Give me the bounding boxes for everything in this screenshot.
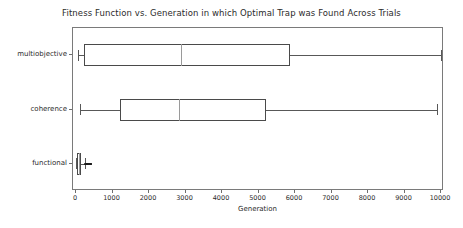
x-tick-label: 6000 [286,194,303,202]
whisker-low-cap [78,50,79,61]
y-tick-label-coherence: coherence [31,105,68,113]
y-tick [69,109,72,110]
x-tick [294,190,295,193]
x-tick-label: 8000 [359,194,376,202]
x-axis-label: Generation [72,205,443,213]
x-tick-label: 0 [73,194,77,202]
x-tick-label: 5000 [249,194,266,202]
x-tick [221,190,222,193]
x-tick [440,190,441,193]
plot-area [72,27,443,190]
x-tick-label: 4000 [213,194,230,202]
x-tick [148,190,149,193]
y-tick-label-multiobjective: multiobjective [17,50,67,58]
x-tick [185,190,186,193]
x-tick [331,190,332,193]
x-tick-label: 3000 [176,194,193,202]
figure: Fitness Function vs. Generation in which… [0,0,463,228]
chart-title: Fitness Function vs. Generation in which… [0,8,463,18]
y-tick-label-functional: functional [32,159,67,167]
whisker-low-cap [80,104,81,115]
x-tick-label: 7000 [322,194,339,202]
median-line [79,153,80,175]
x-tick [367,190,368,193]
x-tick-label: 1000 [103,194,120,202]
x-tick [258,190,259,193]
whisker-low-line [80,110,119,111]
x-tick [75,190,76,193]
whisker-high-cap [441,50,442,61]
median-line [181,44,182,66]
outlier-point [90,163,92,165]
median-line [179,99,180,121]
x-tick-label: 9000 [395,194,412,202]
x-tick [404,190,405,193]
y-tick [69,163,72,164]
x-tick [112,190,113,193]
boxplot-series [73,28,442,189]
x-tick-label: 2000 [140,194,157,202]
box-iqr [120,99,266,121]
y-tick [69,54,72,55]
whisker-high-line [266,110,437,111]
whisker-high-line [290,55,441,56]
x-tick-label: 10000 [430,194,451,202]
whisker-high-cap [437,104,438,115]
box-iqr [84,44,290,66]
